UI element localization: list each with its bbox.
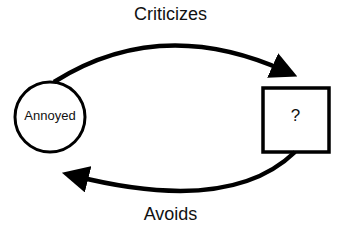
avoids-arrow — [75, 152, 295, 191]
node-label-annoyed: Annoyed — [14, 108, 86, 123]
criticizes-arrow — [54, 46, 285, 82]
edge-label-avoids: Avoids — [0, 204, 341, 225]
node-label-unknown: ? — [262, 106, 329, 126]
edge-label-criticizes: Criticizes — [0, 4, 341, 25]
